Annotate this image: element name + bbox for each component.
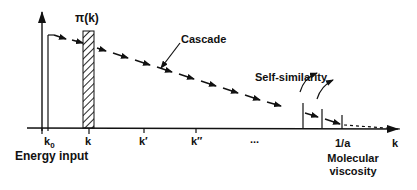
axis-label-k: k <box>392 138 398 149</box>
pi-k-label: π(k) <box>75 12 99 24</box>
molecular-viscosity-label: Molecular viscosity <box>318 152 388 178</box>
tick-label-one-over-a: 1/a <box>335 138 350 149</box>
tick-label-k: k <box>85 136 91 147</box>
self-similarity-label: Self-similarity <box>255 72 327 83</box>
cascade-pointer-arrow <box>161 43 180 68</box>
tick-label-k-prime: k′ <box>139 136 148 147</box>
energy-input-label: Energy input <box>15 150 88 162</box>
cascade-label: Cascade <box>181 34 226 45</box>
pi-k-hatched-bar <box>83 31 94 128</box>
tick-label-k-double-prime: k″ <box>191 136 202 147</box>
tick-label-ellipsis: ... <box>250 134 259 145</box>
